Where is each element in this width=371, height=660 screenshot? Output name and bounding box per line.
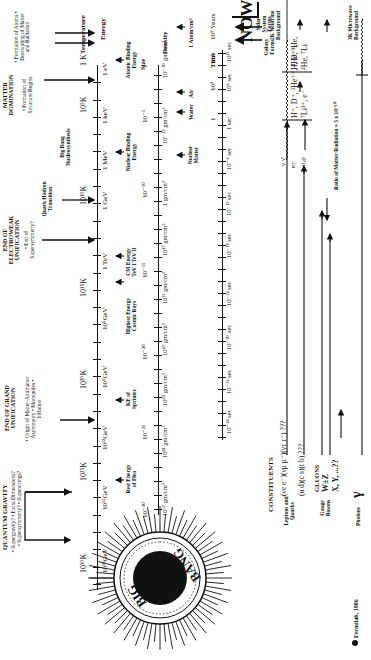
temperature-tick	[93, 152, 101, 153]
fermilab-logo-icon	[352, 640, 358, 646]
temperature-tick	[93, 273, 101, 274]
annotation-water: Water	[188, 104, 194, 120]
temperature-tick	[93, 82, 101, 83]
time-tick	[218, 137, 226, 138]
temperature-label: Temperature	[80, 15, 87, 54]
cosmic-history-diagram: QUANTUM GRAVITY • Supergravity? • Extra …	[0, 0, 371, 660]
temperature-tick	[93, 584, 101, 585]
energy-tick-label: 10⁹GeV	[102, 365, 109, 388]
annotation-atomic-binding: Atomic Binding Energy	[126, 36, 137, 84]
size-tick	[154, 257, 162, 258]
neutrino-background-label: 2K Neutrino Background	[270, 0, 281, 40]
time-tick-label: 10⁻⁶ sec	[226, 147, 233, 170]
time-tick-label: 10¹² sec	[226, 42, 233, 62]
annotation-ke-sprinter: KE of Sprinter	[126, 384, 137, 414]
time-tick	[218, 185, 226, 186]
density-tick-label: 10⁻¹⁵ gm/cm³	[162, 108, 169, 144]
temperature-tick	[93, 532, 101, 533]
size-tick	[154, 89, 162, 90]
size-tick	[154, 481, 162, 482]
size-tick	[154, 215, 162, 216]
temperature-tick	[93, 498, 101, 499]
quarks-row: (u d)(c s)(t b) ???	[298, 444, 306, 496]
size-density-axis	[158, 65, 159, 515]
temperature-tick	[93, 394, 101, 395]
wz-label: W±Z	[322, 474, 330, 492]
size-tick-label: 10⁻¹⁵	[142, 262, 149, 278]
time-tick-label: 1 sec	[226, 117, 233, 130]
time-tick	[218, 101, 226, 102]
credit-label: Fermilab, 1986	[352, 599, 359, 646]
temperature-tick-label: 10²⁰K	[80, 370, 88, 389]
time-tick	[218, 353, 226, 354]
temperature-tick	[93, 480, 101, 481]
time-tick-label: 10⁻⁴² sec	[226, 409, 233, 434]
temperature-tick	[93, 342, 101, 343]
era-quark-hadron: Quark Hadron Transition	[42, 178, 53, 220]
era-electroweak-title: END OF ELECTROWEAK UNIFICATION	[2, 208, 20, 272]
size-tick-label: 10⁻³⁰	[142, 502, 149, 518]
size-tick	[154, 467, 162, 468]
temperature-tick-label: 1 K	[80, 54, 88, 66]
gauge-bosons-label: Gauge Bosons	[320, 496, 331, 520]
temperature-tick-label: 10¹⁵K	[80, 278, 88, 297]
temperature-tick	[93, 186, 101, 187]
time-tick	[218, 173, 226, 174]
temperature-tick	[93, 307, 101, 308]
temperature-tick	[93, 359, 101, 360]
size-tick-label: 10⁻⁵	[142, 110, 149, 123]
annotation-rest-energy-flea: Rest Energy of Flea	[126, 462, 137, 496]
energy-tick-label: 1 MeV	[102, 150, 109, 170]
temperature-tick	[93, 549, 101, 550]
temperature-tick-label: 10¹⁰K	[80, 186, 88, 205]
time-tick	[218, 437, 226, 438]
size-tick	[154, 411, 162, 412]
time-tick	[218, 269, 226, 270]
density-tick-label: 10⁴⁹ gm/cm³	[162, 323, 169, 356]
density-tick-label: 10¹⁷ gm/cm³	[162, 224, 169, 256]
era-electroweak-items: • End of Supersymmetry?	[24, 212, 35, 268]
size-tick	[154, 369, 162, 370]
era-atoms-items: • Formation of Atoms • Decoupling of Mat…	[14, 10, 31, 64]
era-matter-domination-items: • Formation of Structure Begins	[22, 70, 33, 120]
temperature-tick	[93, 463, 101, 464]
energy-tick-label: 10⁶GeV	[102, 307, 109, 330]
annotation-nuclear-matter: Nuclear Matter	[188, 138, 199, 172]
time-tick-label: 10⁻³⁰ sec	[226, 325, 233, 350]
time-tick	[218, 365, 226, 366]
density-tick-label: 1 gm/cm³	[162, 181, 169, 206]
density-tick-label: 10⁶⁵ gm/cm³	[162, 373, 169, 406]
temperature-tick-label: 10³⁰K	[80, 554, 88, 573]
temperature-tick	[93, 376, 101, 377]
temperature-tick	[93, 169, 101, 170]
era-matter-domination-title: MATTER DOMINATION	[2, 70, 14, 120]
density-tick-label: 10⁹⁷ gm/cm³	[162, 483, 169, 516]
xy-label: X, Y, ...??	[332, 459, 340, 492]
density-tick-label: 10³³ gm/cm³	[162, 272, 169, 304]
temperature-tick	[93, 290, 101, 291]
late-nuclei-label: H, D, ³He, ⁴He, ⁷Li	[290, 26, 310, 70]
leptons-quarks-label: Leptons and Quarks	[284, 496, 295, 526]
temperature-tick	[93, 238, 101, 239]
temperature-tick	[93, 221, 101, 222]
size-tick	[154, 145, 162, 146]
time-tick-label: 10⁻³⁶ sec	[226, 369, 233, 394]
era-nucleosynthesis: Big Bang Nucleosynthesis	[60, 126, 71, 168]
annotation-cm-energy: CM Energy TeV I TeV II	[126, 244, 137, 280]
constituents-title: CONSTITUENTS	[268, 457, 275, 512]
positron-label: e±	[290, 161, 297, 168]
temperature-tick	[93, 255, 101, 256]
energy-tick-label: 1 TeV	[102, 253, 109, 270]
years-tick-label: 1	[210, 118, 217, 122]
years-tick-label: 10⁹ Years	[210, 13, 217, 40]
years-tick-label: 10⁶	[210, 54, 217, 63]
time-tick-label: 10⁶ sec	[226, 73, 233, 92]
annotation-one-atom: 1 Atom/cm³	[188, 18, 194, 48]
time-tick-label: 10⁻²⁴ sec	[226, 281, 233, 306]
era-grand-unification-items: • Origin of Matter-Antimatter Asymmetry …	[24, 372, 42, 446]
time-tick	[218, 113, 226, 114]
energy-tick-label: 10¹⁸GeV	[102, 548, 109, 573]
np-label: n,p	[300, 157, 307, 166]
neutrino-label: ν ν̄	[280, 158, 287, 166]
time-tick-label: 10⁻¹² sec	[226, 192, 233, 216]
